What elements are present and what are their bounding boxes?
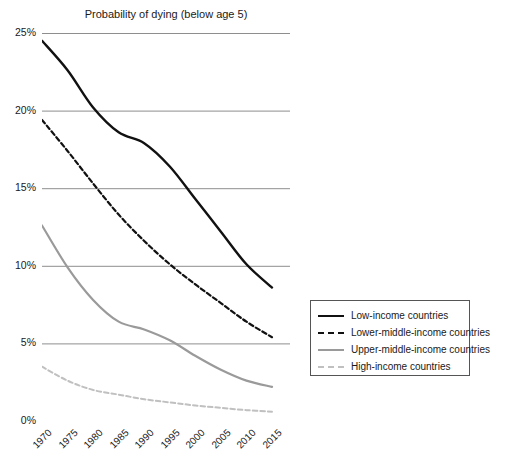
legend-item-3[interactable]: High-income countries xyxy=(311,358,469,375)
legend-item-label: Upper-middle-income countries xyxy=(351,344,490,355)
plot-area xyxy=(42,33,290,421)
legend-item-2[interactable]: Upper-middle-income countries xyxy=(311,341,469,358)
chart-canvas xyxy=(42,33,290,421)
x-tick-label-2015: 2015 xyxy=(256,427,284,455)
legend-item-label: Low-income countries xyxy=(351,310,448,321)
y-tick-label-25%: 25% xyxy=(2,26,36,38)
x-tick-label-2000: 2000 xyxy=(180,427,208,455)
legend-line-swatch-icon xyxy=(318,362,344,372)
legend-line-swatch-icon xyxy=(318,311,344,321)
legend-line-swatch-icon xyxy=(318,328,344,338)
y-tick-label-20%: 20% xyxy=(2,104,36,116)
legend-item-label: High-income countries xyxy=(351,361,451,372)
chart-title: Probability of dying (below age 5) xyxy=(42,8,290,20)
legend-line-swatch-icon xyxy=(318,345,344,355)
legend-item-0[interactable]: Low-income countries xyxy=(311,307,469,324)
x-tick-label-1990: 1990 xyxy=(128,427,156,455)
series-line-2 xyxy=(42,225,272,386)
legend: Low-income countriesLower-middle-income … xyxy=(310,300,470,376)
series-line-3 xyxy=(42,367,272,412)
x-tick-label-1995: 1995 xyxy=(154,427,182,455)
x-tick-label-1970: 1970 xyxy=(26,427,54,455)
legend-item-1[interactable]: Lower-middle-income countries xyxy=(311,324,469,341)
x-tick-label-1980: 1980 xyxy=(77,427,105,455)
y-tick-label-5%: 5% xyxy=(2,336,36,348)
series-line-0 xyxy=(42,41,272,288)
legend-item-label: Lower-middle-income countries xyxy=(351,327,490,338)
x-tick-label-1985: 1985 xyxy=(103,427,131,455)
y-tick-label-15%: 15% xyxy=(2,181,36,193)
x-tick-label-1975: 1975 xyxy=(52,427,80,455)
x-tick-label-2010: 2010 xyxy=(231,427,259,455)
y-tick-label-10%: 10% xyxy=(2,259,36,271)
chart-root: Probability of dying (below age 5) 0%5%1… xyxy=(0,0,506,469)
x-tick-label-2005: 2005 xyxy=(205,427,233,455)
y-tick-label-0%: 0% xyxy=(2,414,36,426)
